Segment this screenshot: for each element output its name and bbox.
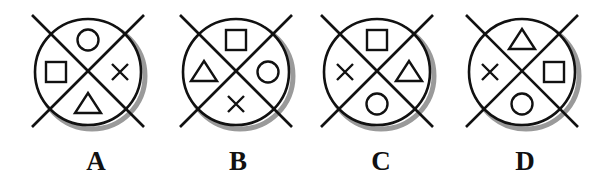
figure-d (466, 15, 579, 129)
option-label-c: C (306, 146, 456, 177)
figure-a (32, 15, 145, 129)
option-label-a: A (21, 146, 171, 177)
option-label-b: B (163, 146, 313, 177)
option-label-d: D (450, 146, 600, 177)
figure-b (180, 15, 293, 129)
figure-c (321, 15, 434, 129)
